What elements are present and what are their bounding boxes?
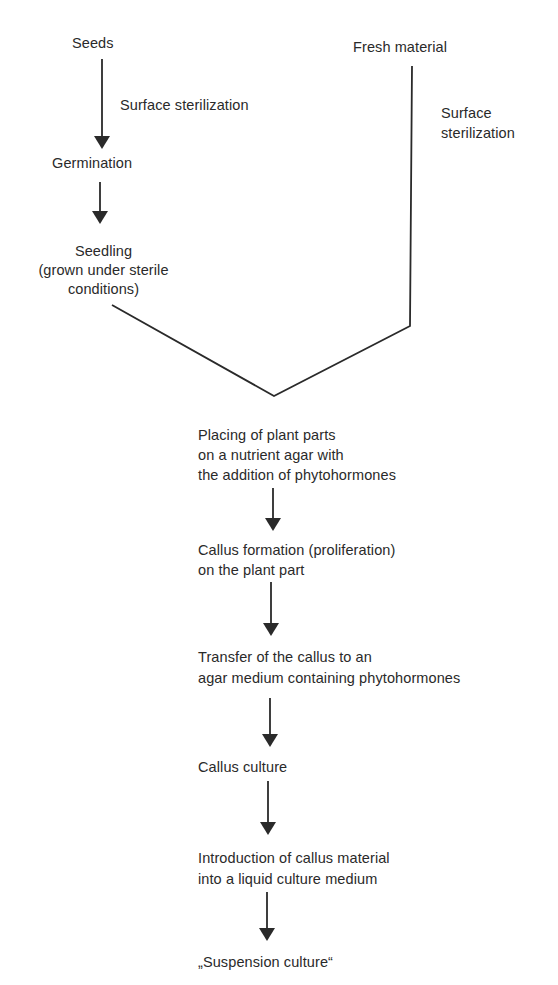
placing-line-2: on a nutrient agar with bbox=[198, 445, 396, 465]
transfer-line-1: Transfer of the callus to an bbox=[198, 647, 460, 668]
arrowhead bbox=[262, 734, 278, 747]
node-seedling: Seedling (grown under sterile conditions… bbox=[16, 242, 191, 299]
node-callus-formation: Callus formation (proliferation) on the … bbox=[198, 540, 395, 580]
arrowhead bbox=[94, 136, 110, 149]
node-callus-culture: Callus culture bbox=[198, 758, 287, 777]
node-introduction-liquid-medium: Introduction of callus material into a l… bbox=[198, 848, 390, 890]
seedling-line-1: Seedling bbox=[16, 242, 191, 261]
node-transfer-callus: Transfer of the callus to an agar medium… bbox=[198, 647, 460, 689]
transfer-line-2: agar medium containing phytohormones bbox=[198, 668, 460, 689]
introduction-line-2: into a liquid culture medium bbox=[198, 869, 390, 890]
arrowhead bbox=[263, 623, 279, 636]
callus-formation-line-1: Callus formation (proliferation) bbox=[198, 540, 395, 560]
label-surface-sterilization-right: Surface sterilization bbox=[441, 103, 515, 143]
placing-line-1: Placing of plant parts bbox=[198, 425, 396, 445]
label-surface-sterilization-left: Surface sterilization bbox=[120, 96, 249, 115]
merge-connector bbox=[112, 66, 412, 396]
node-seeds: Seeds bbox=[72, 34, 114, 53]
arrowhead bbox=[92, 211, 108, 224]
right-sterilization-line-1: Surface bbox=[441, 103, 515, 123]
introduction-line-1: Introduction of callus material bbox=[198, 848, 390, 869]
callus-formation-line-2: on the plant part bbox=[198, 560, 395, 580]
arrowhead bbox=[265, 518, 281, 531]
node-germination: Germination bbox=[52, 154, 132, 173]
node-placing-plant-parts: Placing of plant parts on a nutrient aga… bbox=[198, 425, 396, 485]
arrowhead bbox=[259, 928, 275, 941]
node-fresh-material: Fresh material bbox=[353, 38, 447, 57]
right-sterilization-line-2: sterilization bbox=[441, 123, 515, 143]
connector-lines bbox=[0, 0, 558, 985]
seedling-line-3: conditions) bbox=[16, 280, 191, 299]
node-suspension-culture: „Suspension culture“ bbox=[198, 953, 333, 972]
seedling-line-2: (grown under sterile bbox=[16, 261, 191, 280]
arrowhead bbox=[260, 822, 276, 835]
placing-line-3: the addition of phytohormones bbox=[198, 465, 396, 485]
